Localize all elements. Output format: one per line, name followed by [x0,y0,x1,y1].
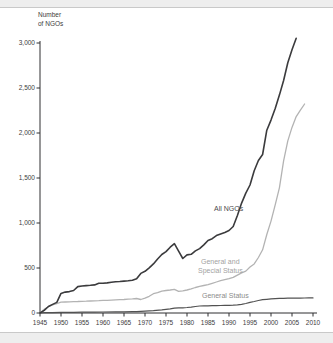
series-label-general-special-line1: General and [201,258,240,266]
page-bottom-edge [0,332,333,343]
series-line-general-special [40,104,305,313]
x-tick-label: 2000 [264,319,279,326]
y-tick-label: 500 [24,264,35,271]
y-tick-label: 0 [31,309,35,316]
series-line-general [40,298,313,313]
series-line-all-ngos [40,38,296,313]
x-tick-label: 1965 [117,319,132,326]
x-tick-label: 2005 [285,319,300,326]
x-tick-label: 1995 [243,319,258,326]
x-tick-label: 1985 [201,319,216,326]
x-tick-label: 1950 [54,319,69,326]
y-tick-label: 1,500 [19,174,36,181]
y-tick-label: 3,000 [19,39,36,46]
y-tick-label: 2,500 [19,84,36,91]
y-axis-title-line1: Number [38,10,61,19]
x-tick-label: 1990 [222,319,237,326]
y-tick-label: 2,000 [19,129,36,136]
x-tick-label: 2010 [306,319,321,326]
x-tick-label: 1955 [75,319,90,326]
series-label-all-ngos: All NGOs [214,205,243,213]
y-tick-label: 1,000 [19,219,36,226]
x-tick-label: 1960 [96,319,111,326]
x-tick-label: 1970 [138,319,153,326]
y-axis-title-line2: of NGOs [38,19,63,28]
x-tick-label: 1945 [33,319,48,326]
series-label-general-status: General Status [202,292,249,300]
x-tick-label: 1975 [159,319,174,326]
x-tick-label: 1980 [180,319,195,326]
series-label-general-special-line2: Special Status [198,267,243,275]
